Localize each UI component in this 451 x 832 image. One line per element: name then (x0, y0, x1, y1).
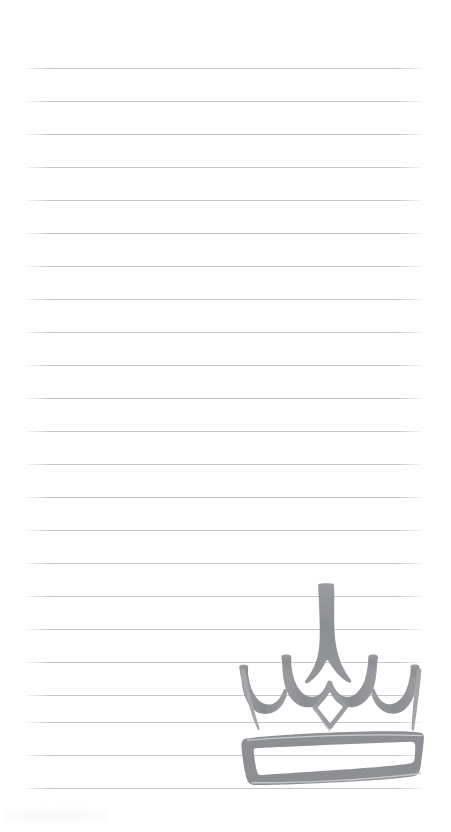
crown-icon (233, 576, 429, 798)
right-outer-arch (371, 666, 417, 714)
diamond-jewel (315, 688, 346, 726)
center-spike (305, 583, 351, 683)
notepad-page (0, 0, 451, 832)
crown-drawing (233, 576, 429, 798)
